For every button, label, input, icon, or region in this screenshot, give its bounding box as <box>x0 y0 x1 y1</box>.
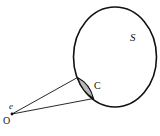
label-e: e <box>9 101 13 111</box>
ray-upper <box>12 78 78 115</box>
label-o: O <box>3 115 10 126</box>
ray-lower <box>12 99 94 115</box>
label-s: S <box>130 31 136 43</box>
label-c: C <box>94 80 101 91</box>
cap-c-region <box>78 78 94 99</box>
solid-angle-diagram: S C e O <box>0 0 160 136</box>
origin-point <box>11 113 14 116</box>
